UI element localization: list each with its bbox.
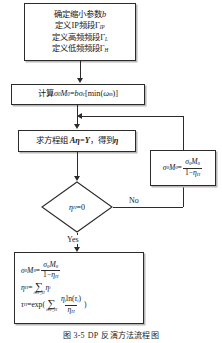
init-line-2: 定义IP频段ΓIP: [55, 21, 104, 31]
edge-label-yes: Yes: [66, 235, 80, 244]
final-eq3-denominator: ηH: [65, 305, 76, 315]
initialization-box: 确定缩小参数b 定义IP频段ΓIP 定义高频频段ΓL 定义低频频段ΓH: [24, 3, 136, 61]
init-line-3: 定义高频频段ΓL: [52, 33, 108, 43]
compute-formula: 计算 σ0M0 = bσc[min(ωm)]: [38, 89, 118, 99]
final-eq1-numerator: σ0M0: [41, 261, 60, 270]
connector-update-to-join: [183, 116, 184, 150]
update-sigma-box: σ0M0= σ0M0 1−ηH: [150, 150, 216, 186]
solve-equations-box: 求方程组 Aη=Y，得到η: [18, 130, 136, 152]
edge-label-no: No: [128, 196, 140, 205]
update-denominator: 1−ηH: [183, 168, 202, 178]
final-eq1-denominator: 1−ηH: [41, 270, 60, 280]
init-line-4: 定义低频频段ΓH: [52, 44, 109, 54]
connector-join-down: [77, 116, 78, 124]
caption-number: 图 3-5: [63, 331, 85, 340]
caption-tag: DP: [88, 331, 99, 340]
connector-no-branch-riser: [183, 186, 184, 207]
final-eq2-summation: ∑ i∈Γ_H: [33, 282, 44, 295]
final-eq1-fraction: σ0M0 1−ηH: [41, 261, 60, 281]
decision-label: ηH=0: [41, 181, 113, 233]
update-numerator: σ0M0: [183, 158, 202, 167]
update-formula: σ0M0= σ0M0 1−ηH: [163, 158, 203, 178]
final-results-box: σ0M0= σ0M0 1−ηH ηH= ∑ i∈Γ_H ηi τH=exp( ∑: [14, 252, 144, 324]
connector-feedback-join: [77, 116, 183, 117]
final-equation-stack: σ0M0= σ0M0 1−ηH ηH= ∑ i∈Γ_H ηi τH=exp( ∑: [21, 260, 87, 316]
final-eq3-numerator: ηiln(τi): [59, 295, 83, 304]
init-line-1: 确定缩小参数b: [54, 10, 106, 20]
figure-caption: 图 3-5DP反演方法流程图: [0, 329, 222, 340]
connector-no-branch: [113, 207, 183, 208]
connector-solve-to-decision: [77, 152, 78, 176]
solve-formula: 求方程组 Aη=Y，得到η: [36, 136, 119, 147]
arrowhead-compute-to-solve: [74, 124, 80, 129]
connector-init-to-compute: [80, 61, 81, 78]
flowchart-canvas: 确定缩小参数b 定义IP频段ΓIP 定义高频频段ΓL 定义低频频段ΓH 计算 σ…: [0, 0, 222, 343]
final-eq3-fraction: ηiln(τi) ηH: [59, 295, 83, 315]
arrowhead-init-to-compute: [77, 78, 83, 83]
update-fraction: σ0M0 1−ηH: [183, 158, 202, 178]
final-equation-3: τH=exp( ∑ i∈Γ_H ηiln(τi) ηH ): [21, 295, 87, 315]
decision-eta-zero: ηH=0: [41, 181, 113, 233]
final-eq3-summation: ∑ i∈Γ_H: [46, 299, 57, 312]
compute-sigma-box: 计算 σ0M0 = bσc[min(ωm)]: [11, 84, 145, 105]
final-equation-1: σ0M0= σ0M0 1−ηH: [21, 261, 87, 281]
final-equation-2: ηH= ∑ i∈Γ_H ηi: [21, 282, 87, 295]
caption-text: 反演方法流程图: [101, 331, 158, 340]
